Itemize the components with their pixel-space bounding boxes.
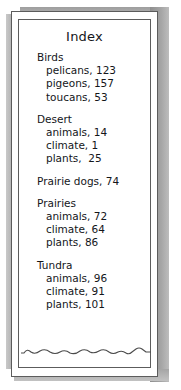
index-group: Birdspelicans, 123pigeons, 157toucans, 5… xyxy=(27,51,142,104)
wavy-torn-edge-line xyxy=(21,345,151,357)
index-entry: animals, 72 xyxy=(27,210,142,223)
index-entry: pigeons, 157 xyxy=(27,77,142,90)
page-inner-border: Index Birdspelicans, 123pigeons, 157touc… xyxy=(18,19,151,368)
index-group: Prairie dogs, 74 xyxy=(27,175,142,188)
index-entry: climate, 91 xyxy=(27,285,142,298)
page-title: Index xyxy=(27,29,142,44)
index-heading: Prairie dogs, 74 xyxy=(27,175,142,188)
index-entry: plants, 25 xyxy=(27,152,142,165)
index-entry: plants, 86 xyxy=(27,236,142,249)
index-heading: Birds xyxy=(27,51,142,64)
index-heading: Desert xyxy=(27,113,142,126)
index-entry: animals, 14 xyxy=(27,126,142,139)
index-entry: animals, 96 xyxy=(27,272,142,285)
index-content: Index Birdspelicans, 123pigeons, 157touc… xyxy=(19,20,150,367)
index-heading: Prairies xyxy=(27,197,142,210)
book-page: Index Birdspelicans, 123pigeons, 157touc… xyxy=(11,11,158,377)
index-entry: climate, 1 xyxy=(27,139,142,152)
index-group-list: Birdspelicans, 123pigeons, 157toucans, 5… xyxy=(27,51,142,311)
index-group: Tundraanimals, 96climate, 91plants, 101 xyxy=(27,259,142,312)
index-entry: climate, 64 xyxy=(27,223,142,236)
index-group: Desertanimals, 14climate, 1plants, 25 xyxy=(27,113,142,166)
index-page-illustration: Index Birdspelicans, 123pigeons, 157touc… xyxy=(0,0,181,390)
index-group: Prairiesanimals, 72climate, 64plants, 86 xyxy=(27,197,142,250)
index-heading: Tundra xyxy=(27,259,142,272)
index-entry: pelicans, 123 xyxy=(27,64,142,77)
index-entry: toucans, 53 xyxy=(27,91,142,104)
index-entry: plants, 101 xyxy=(27,298,142,311)
